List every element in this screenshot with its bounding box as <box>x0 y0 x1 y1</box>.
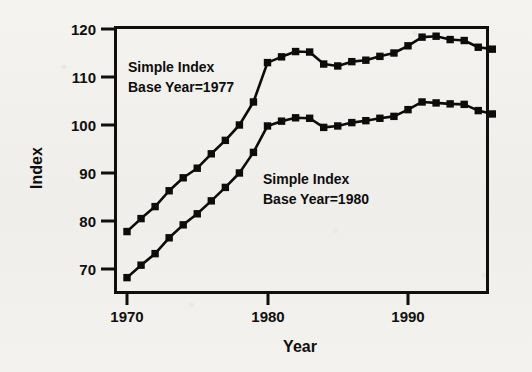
data-point-marker <box>306 115 313 122</box>
data-point-marker <box>446 36 453 43</box>
data-point-marker <box>418 33 425 40</box>
data-point-marker <box>306 48 313 55</box>
data-point-marker <box>461 37 468 44</box>
data-point-marker <box>250 149 257 156</box>
data-point-marker <box>194 165 201 172</box>
annotation-base-year-1980: Simple Index Base Year=1980 <box>263 171 369 207</box>
data-point-marker <box>278 53 285 60</box>
data-point-marker <box>236 169 243 176</box>
data-point-marker <box>390 49 397 56</box>
data-point-marker <box>376 53 383 60</box>
x-tick-label-1990: 1990 <box>391 308 424 325</box>
data-point-marker <box>137 261 144 268</box>
data-point-marker <box>461 101 468 108</box>
y-tick-label-100: 100 <box>71 117 96 134</box>
y-tick-label-70: 70 <box>79 261 96 278</box>
annotation-base-year-1977: Simple Index Base Year=1977 <box>128 59 234 95</box>
data-point-marker <box>418 98 425 105</box>
data-point-marker <box>123 228 130 235</box>
data-point-marker <box>475 107 482 114</box>
data-point-marker <box>348 119 355 126</box>
series-line <box>127 102 492 278</box>
data-point-marker <box>432 33 439 40</box>
x-axis-title: Year <box>283 338 317 355</box>
data-point-marker <box>236 121 243 128</box>
data-point-marker <box>264 59 271 66</box>
annotation-lower-line2: Base Year=1980 <box>263 191 369 207</box>
annotation-upper-line1: Simple Index <box>128 59 215 75</box>
x-tick-label-1980: 1980 <box>251 308 284 325</box>
data-point-marker <box>334 122 341 129</box>
chart-page: 120 110 100 90 80 70 1970 1980 1990 Year… <box>0 0 532 372</box>
data-point-marker <box>292 48 299 55</box>
data-point-marker <box>151 203 158 210</box>
series-simple-index-1980 <box>123 98 496 281</box>
data-point-marker <box>489 110 496 117</box>
data-point-marker <box>165 187 172 194</box>
data-point-marker <box>362 57 369 64</box>
y-axis-ticks <box>101 29 116 269</box>
y-tick-label-80: 80 <box>79 213 96 230</box>
annotation-lower-line1: Simple Index <box>263 171 350 187</box>
data-point-marker <box>348 58 355 65</box>
data-point-marker <box>222 184 229 191</box>
data-point-marker <box>432 99 439 106</box>
data-point-marker <box>264 122 271 129</box>
data-point-marker <box>489 45 496 52</box>
data-point-marker <box>446 100 453 107</box>
data-point-marker <box>320 60 327 67</box>
data-point-marker <box>123 274 130 281</box>
annotation-upper-line2: Base Year=1977 <box>128 79 234 95</box>
y-tick-label-110: 110 <box>72 69 96 86</box>
data-point-marker <box>180 221 187 228</box>
data-point-marker <box>404 106 411 113</box>
y-axis-tick-labels: 120 110 100 90 80 70 <box>71 21 96 278</box>
y-tick-label-120: 120 <box>71 21 96 38</box>
y-tick-label-90: 90 <box>79 165 96 182</box>
data-point-marker <box>250 98 257 105</box>
data-point-marker <box>390 113 397 120</box>
data-point-marker <box>475 44 482 51</box>
data-point-marker <box>334 62 341 69</box>
data-point-marker <box>404 42 411 49</box>
data-point-marker <box>376 115 383 122</box>
data-point-marker <box>165 234 172 241</box>
data-point-marker <box>151 250 158 257</box>
data-point-marker <box>292 114 299 121</box>
x-axis-tick-labels: 1970 1980 1990 <box>110 308 424 325</box>
y-axis-title: Index <box>28 147 45 189</box>
data-point-marker <box>194 210 201 217</box>
index-line-chart: 120 110 100 90 80 70 1970 1980 1990 Year… <box>0 0 532 372</box>
data-point-marker <box>137 215 144 222</box>
data-point-marker <box>222 137 229 144</box>
data-point-marker <box>278 117 285 124</box>
data-point-marker <box>180 174 187 181</box>
data-point-marker <box>320 124 327 131</box>
data-point-marker <box>208 197 215 204</box>
x-tick-label-1970: 1970 <box>110 308 143 325</box>
data-point-marker <box>362 117 369 124</box>
data-point-marker <box>208 150 215 157</box>
